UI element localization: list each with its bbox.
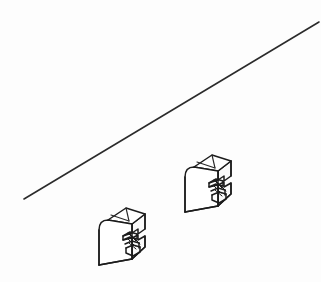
drawing-canvas xyxy=(0,0,321,282)
technical-drawing-svg xyxy=(0,0,321,282)
background-rect xyxy=(0,0,321,282)
